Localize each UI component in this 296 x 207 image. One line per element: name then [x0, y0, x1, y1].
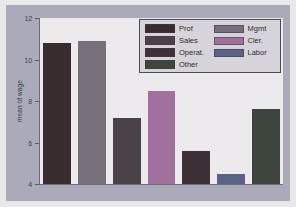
- legend-item-sales[interactable]: Sales: [145, 36, 207, 45]
- figure-canvas: mean of wage 4681012 ProfSalesOperat.Oth…: [6, 5, 290, 201]
- y-tick-label: 12: [25, 15, 32, 22]
- legend-item-operat[interactable]: Operat.: [145, 48, 207, 57]
- legend-item-cler[interactable]: Cler.: [214, 36, 276, 46]
- bar-mgmt: [78, 41, 106, 184]
- legend-label: Prof: [179, 24, 193, 33]
- legend-swatch-icon: [145, 48, 175, 57]
- figure: mean of wage 4681012 ProfSalesOperat.Oth…: [0, 0, 296, 207]
- bar-prof: [43, 43, 71, 184]
- bar-other: [252, 109, 280, 184]
- legend-label: Mgmt: [248, 24, 267, 33]
- y-tick-label: 10: [25, 56, 32, 63]
- legend-swatch-icon: [145, 60, 175, 69]
- y-tick-label: 6: [28, 139, 32, 146]
- y-tick-label: 4: [28, 181, 32, 188]
- legend-swatch-icon: [145, 24, 175, 33]
- bar-labor: [217, 174, 245, 184]
- legend-swatch-icon: [214, 37, 244, 46]
- y-axis: 4681012: [6, 18, 39, 184]
- legend-label: Other: [179, 60, 198, 69]
- y-tick-label: 8: [28, 98, 32, 105]
- legend-label: Sales: [179, 36, 198, 45]
- legend-label: Labor: [248, 48, 267, 57]
- legend-label: Operat.: [179, 48, 204, 57]
- legend-item-prof[interactable]: Prof: [145, 24, 207, 33]
- legend-swatch-icon: [214, 49, 244, 58]
- legend-item-mgmt[interactable]: Mgmt: [214, 24, 276, 34]
- bar-cler: [148, 91, 176, 184]
- legend-swatch-icon: [214, 25, 244, 34]
- legend-item-other[interactable]: Other: [145, 60, 207, 69]
- legend: ProfSalesOperat.OtherMgmtCler.Labor: [139, 19, 281, 73]
- bar-operat: [182, 151, 210, 184]
- bar-sales: [113, 118, 141, 184]
- legend-column-1: ProfSalesOperat.Other: [145, 24, 207, 69]
- legend-column-2: MgmtCler.Labor: [214, 24, 276, 69]
- legend-item-labor[interactable]: Labor: [214, 48, 276, 58]
- legend-label: Cler.: [248, 36, 263, 45]
- legend-swatch-icon: [145, 36, 175, 45]
